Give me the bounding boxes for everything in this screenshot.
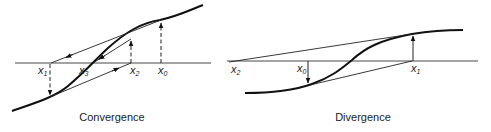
function-curve <box>12 5 203 111</box>
newton-method-diagram: x1 x3 x2 x0 Convergence x2 x0 x1 Diverge… <box>0 0 491 132</box>
label-x1: x1 <box>37 64 48 77</box>
label-x0: x0 <box>296 62 307 75</box>
convergence-panel: x1 x3 x2 x0 Convergence <box>12 5 211 123</box>
label-x2: x2 <box>129 64 140 77</box>
tangent-direction-arrow <box>112 68 119 71</box>
tangent-x0-to-x1 <box>310 61 412 85</box>
divergence-panel: x2 x0 x1 Divergence <box>227 30 478 123</box>
label-x1: x1 <box>410 62 421 75</box>
tangent-x2-to-x3 <box>93 39 131 63</box>
caption-divergence: Divergence <box>335 111 391 123</box>
function-curve <box>245 30 463 93</box>
label-x3: x3 <box>78 64 89 77</box>
tangent-x1-to-x2 <box>229 34 412 62</box>
tangent-direction-arrow <box>66 55 73 58</box>
label-x2: x2 <box>230 63 241 76</box>
caption-convergence: Convergence <box>79 111 144 123</box>
label-x0: x0 <box>157 64 168 77</box>
